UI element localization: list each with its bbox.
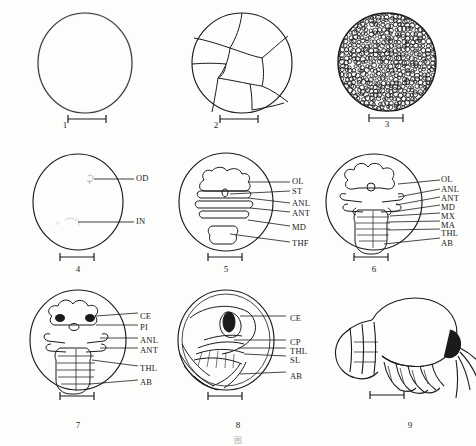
- panel-number-2: 2: [206, 120, 226, 130]
- scale-bar-9: [362, 388, 422, 402]
- label-ant-5: ANT: [292, 209, 310, 218]
- scale-bar-4: [52, 250, 112, 264]
- panel-number-9: 9: [400, 420, 420, 430]
- scale-bar-6: [346, 250, 406, 264]
- panel-2: [180, 8, 310, 128]
- figure-caption: 图: [0, 434, 476, 446]
- developmental-series-figure: 1: [0, 0, 476, 446]
- label-ab-7: AB: [140, 378, 152, 387]
- leader-lines-8: [234, 316, 286, 374]
- label-thf-5: THF: [292, 239, 309, 248]
- panel-number-3: 3: [377, 119, 397, 129]
- panel-3: [325, 8, 455, 128]
- label-ol-6: OL: [441, 175, 453, 184]
- scale-bar-7: [52, 389, 112, 403]
- panel-number-7: 7: [68, 420, 88, 430]
- panel-4: [18, 150, 168, 268]
- label-md-5: MD: [292, 223, 306, 232]
- label-pi-7: PI: [140, 323, 148, 332]
- label-anl-5: ANL: [292, 199, 310, 208]
- label-in: IN: [136, 217, 145, 226]
- egg-outline-5: [179, 153, 273, 251]
- embryo-body-5: [195, 167, 253, 244]
- egg-outline-7: [30, 290, 126, 390]
- blastula-cells: [335, 10, 439, 115]
- label-thl-7: THL: [140, 364, 157, 373]
- egg-outline-6: [326, 154, 422, 250]
- label-od: OD: [136, 174, 149, 183]
- oil-droplet-mark: [87, 175, 93, 184]
- label-st-5: ST: [292, 187, 302, 196]
- label-ab-6: AB: [441, 239, 453, 248]
- embryo-body-6: [340, 163, 404, 254]
- label-ce-8: CE: [290, 314, 301, 323]
- leader-lines-6: [384, 180, 440, 244]
- label-ol-5: OL: [292, 177, 304, 186]
- trunk-segments-6: [356, 211, 390, 248]
- inner-mass-mark: [56, 218, 79, 226]
- egg-outline-4: [33, 154, 123, 250]
- larva-outline-9: [335, 298, 476, 398]
- panel-9: [310, 286, 476, 406]
- compound-eye-left: [55, 314, 65, 322]
- panel-1: [22, 8, 162, 128]
- scale-bar-8: [200, 389, 260, 403]
- limb-hatching-9: [354, 342, 428, 384]
- label-ce-7: CE: [140, 312, 151, 321]
- label-ant-7: ANT: [140, 346, 158, 355]
- panel-number-1: 1: [55, 120, 75, 130]
- panel-number-5: 5: [216, 264, 236, 274]
- label-thl-6: THL: [441, 229, 458, 238]
- label-ab-8: AB: [290, 372, 302, 381]
- scale-bar-5: [200, 250, 260, 264]
- compound-eye-right: [85, 314, 95, 322]
- panel-number-6: 6: [364, 264, 384, 274]
- label-anl-7: ANL: [140, 336, 158, 345]
- panel-number-4: 4: [68, 264, 88, 274]
- panel-number-8: 8: [228, 420, 248, 430]
- label-sl-8: SL: [290, 356, 300, 365]
- compound-eye-8: [223, 312, 235, 332]
